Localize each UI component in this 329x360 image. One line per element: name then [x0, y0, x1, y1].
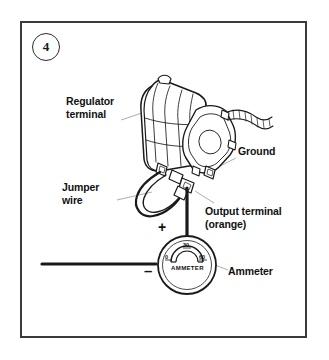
figure-page: 4: [0, 0, 329, 360]
ammeter-tick-0: 0: [165, 254, 168, 260]
label-regulator-terminal: Regulator terminal: [66, 95, 114, 120]
polarity-positive-sign: +: [158, 219, 166, 235]
ammeter-tick-60: 60: [199, 254, 205, 260]
polarity-negative-sign: –: [144, 262, 152, 279]
ammeter-tick-30: 30: [183, 242, 189, 248]
figure-number-badge: 4: [32, 33, 60, 61]
label-jumper-wire: Jumper wire: [62, 181, 99, 206]
label-output-terminal: Output terminal (orange): [205, 205, 282, 230]
label-ammeter: Ammeter: [228, 265, 273, 278]
label-ground: Ground: [238, 145, 275, 158]
ammeter-face-label: AMMETER: [160, 265, 215, 271]
